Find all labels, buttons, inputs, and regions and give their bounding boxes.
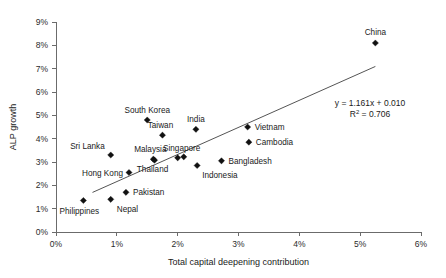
y-tick-label: 1%: [36, 204, 49, 214]
data-point-label: Pakistan: [133, 188, 165, 197]
data-point-marker: [159, 132, 165, 138]
x-tick-label: 2%: [172, 239, 185, 249]
data-point-label: Hong Kong: [82, 169, 123, 178]
data-point-marker: [193, 126, 199, 132]
data-point-label: Cambodia: [256, 138, 294, 147]
data-point-label: India: [187, 115, 205, 124]
data-point-marker: [108, 196, 114, 202]
y-tick-label: 5%: [36, 110, 49, 120]
y-tick-label: 4%: [36, 134, 49, 144]
data-point-label: Sri Lanka: [70, 142, 105, 151]
y-axis-title: ALP growth: [8, 104, 18, 150]
x-tick-label: 1%: [111, 239, 124, 249]
data-point-marker: [80, 197, 86, 203]
data-point-label: Vietnam: [255, 123, 285, 132]
y-tick-label: 9%: [36, 17, 49, 27]
x-axis-title: Total capital deepening contribution: [168, 257, 309, 267]
data-point-marker: [372, 40, 378, 46]
data-point-marker: [194, 162, 200, 168]
data-point-label: China: [365, 28, 387, 37]
data-point-label: Singapore: [163, 144, 201, 153]
data-point-label: South Korea: [124, 106, 170, 115]
data-point-label: Taiwan: [148, 121, 174, 130]
data-point-marker: [108, 152, 114, 158]
y-tick-label: 8%: [36, 40, 49, 50]
data-point-marker: [181, 154, 187, 160]
r-squared-value: R2 = 0.706: [350, 109, 391, 119]
x-tick-label: 6%: [415, 239, 428, 249]
data-point-label: Bangladesh: [228, 157, 272, 166]
chart-canvas: 0%1%2%3%4%5%6%7%8%9%0%1%2%3%4%5%6% Phili…: [0, 0, 446, 278]
regression-equation: y = 1.161x + 0.010: [335, 98, 406, 108]
data-point-label: Nepal: [117, 205, 139, 214]
data-point-label: Indonesia: [202, 171, 238, 180]
y-tick-label: 0%: [36, 227, 49, 237]
y-tick-label: 6%: [36, 87, 49, 97]
data-point-marker: [246, 139, 252, 145]
data-point-label: Thailand: [137, 165, 169, 174]
x-tick-label: 5%: [354, 239, 367, 249]
y-tick-label: 3%: [36, 157, 49, 167]
point-labels: PhilippinesNepalSri LankaPakistanHong Ko…: [60, 28, 387, 216]
regression-annotation: y = 1.161x + 0.010R2 = 0.706: [335, 98, 406, 119]
x-tick-label: 4%: [293, 239, 306, 249]
data-point-marker: [218, 158, 224, 164]
y-tick-label: 2%: [36, 180, 49, 190]
y-tick-label: 7%: [36, 64, 49, 74]
scatter-chart: 0%1%2%3%4%5%6%7%8%9%0%1%2%3%4%5%6% Phili…: [0, 0, 446, 278]
x-tick-label: 0%: [50, 239, 63, 249]
data-point-label: Philippines: [60, 207, 100, 216]
x-tick-label: 3%: [232, 239, 245, 249]
data-point-marker: [123, 189, 129, 195]
